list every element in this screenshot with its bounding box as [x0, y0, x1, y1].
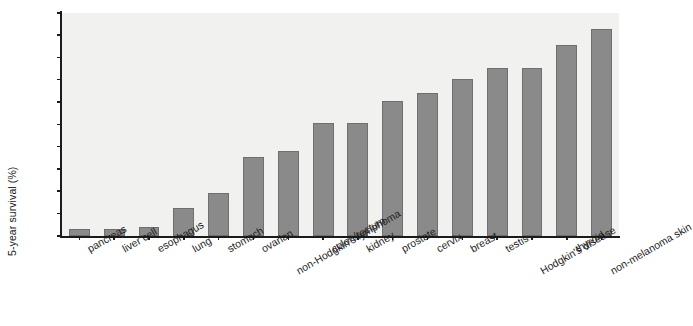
y-axis-tick-mark	[57, 12, 62, 14]
bar	[69, 229, 90, 236]
y-axis-tick-mark	[57, 101, 62, 103]
x-axis-label: non-melanoma skin	[608, 220, 693, 276]
x-axis-tick-mark	[531, 236, 533, 240]
y-axis-tick-mark	[57, 168, 62, 170]
y-axis-tick-mark	[57, 235, 62, 237]
y-axis-tick-mark	[57, 213, 62, 215]
y-axis-tick-mark	[57, 34, 62, 36]
x-axis-tick-mark	[566, 236, 568, 240]
bar	[556, 45, 577, 236]
y-axis-tick-mark	[57, 57, 62, 59]
bar	[278, 151, 299, 236]
bar	[452, 79, 473, 236]
y-axis-tick-mark	[57, 190, 62, 192]
bar	[243, 157, 264, 236]
bar	[522, 68, 543, 236]
bar	[591, 29, 612, 236]
y-axis-tick-mark	[57, 79, 62, 81]
y-axis-tick-mark	[57, 124, 62, 126]
bar	[347, 123, 368, 236]
x-axis-tick-mark	[79, 236, 81, 240]
y-axis-tick-mark	[57, 146, 62, 148]
y-axis-title: 5-year survival (%)	[6, 116, 20, 256]
bar	[487, 68, 508, 236]
bar	[417, 93, 438, 236]
x-axis-tick-mark	[322, 236, 324, 240]
bar	[208, 193, 229, 236]
x-axis-tick-mark	[218, 236, 220, 240]
bar	[313, 123, 334, 236]
